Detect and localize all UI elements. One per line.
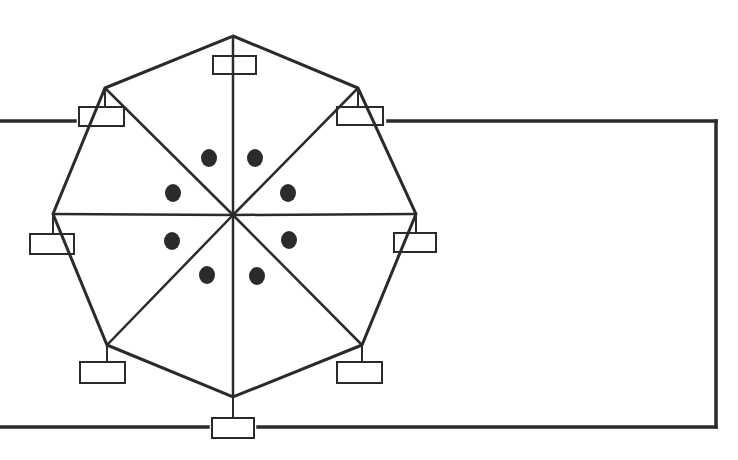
dot-3 (165, 184, 181, 202)
dot-4 (280, 184, 296, 202)
diagram-canvas (0, 0, 738, 460)
box-bottom-right (337, 362, 382, 383)
spoke-right (233, 214, 416, 215)
box-bottom-left (80, 362, 125, 383)
box-bottom (212, 418, 254, 438)
box-top-left (79, 107, 124, 126)
dot-1 (201, 149, 217, 167)
dot-6 (281, 231, 297, 249)
box-top-right (337, 107, 383, 125)
spoke-left (53, 214, 233, 215)
dot-5 (164, 232, 180, 250)
dot-8 (249, 267, 265, 285)
octagon-diagram (0, 0, 738, 460)
box-stems (53, 88, 416, 418)
outer-loop-conductor (0, 121, 716, 427)
dot-2 (247, 149, 263, 167)
dot-7 (199, 266, 215, 284)
box-top (213, 56, 256, 74)
